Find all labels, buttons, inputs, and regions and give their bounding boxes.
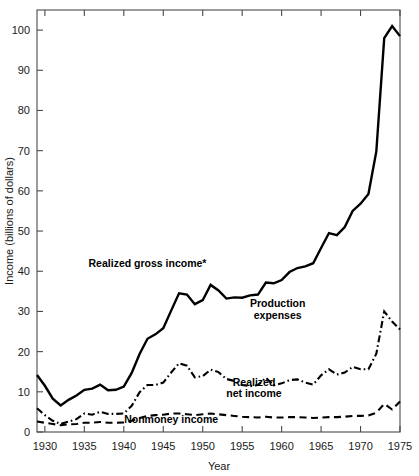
x-tick-label: 1960 (269, 440, 293, 452)
y-tick-label: 20 (18, 346, 30, 358)
x-tick-label: 1945 (151, 440, 175, 452)
chart-tick-labels: 0102030405060708090100193019351940194519… (12, 24, 413, 452)
y-tick-label: 0 (24, 426, 30, 438)
x-tick-label: 1955 (230, 440, 254, 452)
x-tick-label: 1930 (33, 440, 57, 452)
x-tick-label: 1935 (72, 440, 96, 452)
y-tick-label: 50 (18, 225, 30, 237)
series-annotation-0: Realized gross income* (89, 257, 208, 269)
y-tick-label: 10 (18, 386, 30, 398)
y-tick-label: 40 (18, 265, 30, 277)
y-tick-label: 80 (18, 104, 30, 116)
x-tick-label: 1965 (309, 440, 333, 452)
chart-series (37, 26, 400, 425)
series-line-0 (37, 26, 400, 405)
y-tick-label: 90 (18, 64, 30, 76)
series-line-2 (37, 401, 400, 425)
y-tick-label: 60 (18, 185, 30, 197)
x-tick-label: 1940 (112, 440, 136, 452)
series-annotation-3: Realized (233, 376, 276, 388)
line-chart: 0102030405060708090100193019351940194519… (0, 0, 419, 476)
series-line-1 (37, 311, 400, 424)
y-tick-label: 70 (18, 145, 30, 157)
series-annotation-2: expenses (254, 309, 302, 321)
series-annotation-5: Nonmoney income (124, 413, 218, 425)
y-tick-label: 30 (18, 305, 30, 317)
chart-axes (37, 10, 400, 432)
series-annotation-4: net income (226, 387, 282, 399)
x-tick-label: 1950 (190, 440, 214, 452)
chart-figure: 0102030405060708090100193019351940194519… (0, 0, 419, 476)
x-tick-label: 1970 (348, 440, 372, 452)
x-axis-title: Year (208, 460, 231, 472)
y-axis-title: Income (billions of dollars) (3, 157, 15, 285)
y-tick-label: 100 (12, 24, 30, 36)
series-annotation-1: Production (250, 297, 305, 309)
x-tick-label: 1975 (388, 440, 412, 452)
